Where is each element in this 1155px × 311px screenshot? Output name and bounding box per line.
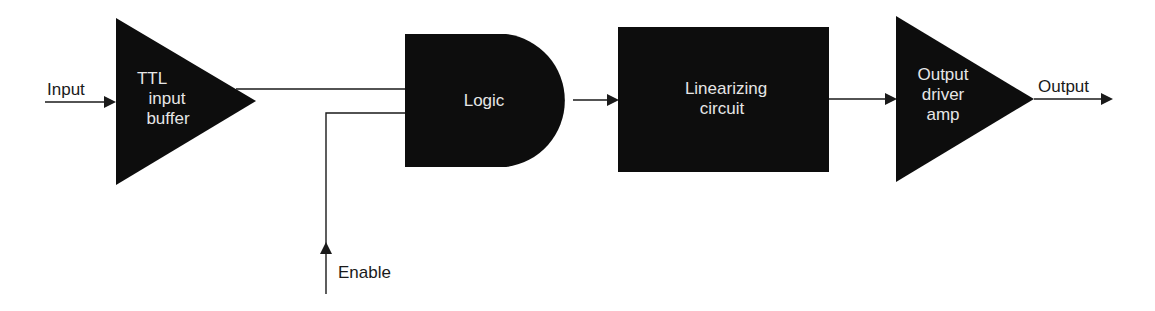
amp-label-line1: Output <box>917 65 968 84</box>
enable-arrowhead-icon <box>320 242 332 254</box>
output-signal: Output <box>1034 77 1113 105</box>
output-arrowhead-icon <box>1101 93 1113 105</box>
amp-label-line3: amp <box>926 105 959 124</box>
linearizer-label-line2: circuit <box>700 99 745 118</box>
linearizer-label-line1: Linearizing <box>685 79 767 98</box>
ttl-buffer-label-line1: TTL <box>137 69 167 88</box>
amp-triangle-icon <box>896 16 1034 182</box>
block-diagram: Input TTL input buffer Enable Logic Line… <box>0 0 1155 311</box>
output-label: Output <box>1038 77 1089 96</box>
linearizing-circuit-block: Linearizing circuit <box>618 27 829 172</box>
input-signal: Input <box>45 80 116 108</box>
linearizer-arrowhead-icon <box>607 94 619 106</box>
ttl-buffer-label-line2: input <box>149 89 186 108</box>
enable-label: Enable <box>338 263 391 282</box>
amp-arrowhead-icon <box>885 93 897 105</box>
ttl-buffer-label-line3: buffer <box>146 109 190 128</box>
ttl-input-buffer-block: TTL input buffer <box>116 18 256 185</box>
output-driver-amp-block: Output driver amp <box>896 16 1034 182</box>
buffer-triangle-icon <box>116 18 256 185</box>
logic-block: Logic <box>405 34 565 167</box>
input-arrowhead-icon <box>104 96 116 108</box>
amp-label-line2: driver <box>922 85 965 104</box>
enable-signal: Enable <box>320 113 406 294</box>
logic-label: Logic <box>464 91 505 110</box>
input-label: Input <box>47 80 85 99</box>
